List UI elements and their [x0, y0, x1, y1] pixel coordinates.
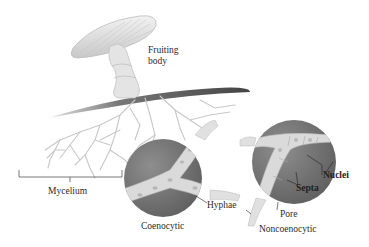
label-fruiting-line1: Fruiting	[148, 45, 179, 56]
label-septa: Septa	[296, 183, 319, 194]
label-fruiting-line2: body	[148, 56, 179, 67]
label-fruiting-body: Fruiting body	[148, 45, 179, 67]
mushroom-fruiting-body	[71, 16, 156, 98]
label-mycelium: Mycelium	[48, 186, 87, 197]
label-noncoenocytic: Noncoenocytic	[259, 224, 317, 235]
label-hyphae: Hyphae	[207, 200, 237, 211]
fungus-diagram	[0, 0, 369, 247]
label-pore: Pore	[280, 209, 297, 220]
label-nuclei: Nuclei	[323, 170, 349, 181]
mycelium-bracket	[19, 170, 122, 182]
label-coenocytic: Coenocytic	[141, 221, 184, 232]
